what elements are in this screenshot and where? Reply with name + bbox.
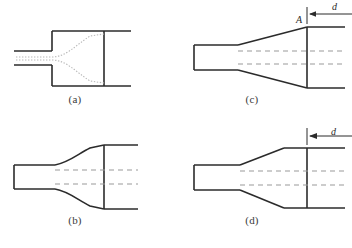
panel-c-caption: (c) (232, 93, 272, 105)
panel-d-caption: (d) (232, 214, 272, 226)
panel-b-diverging-upper-wall (55, 145, 104, 165)
panel-b-diverging-lower-wall (55, 189, 104, 209)
panel-d-geometry (194, 128, 352, 208)
panel-a-jet-boundary-upper (16, 34, 104, 57)
diffuser-figure-svg (0, 0, 352, 248)
panel-b-geometry (14, 145, 138, 209)
panel-d-dimension-arrowhead-left-icon (309, 133, 317, 139)
panel-c-diverging-lower-wall (238, 70, 307, 88)
panel-b-caption: (b) (55, 214, 95, 226)
panel-a-jet-boundary-lower (16, 60, 104, 83)
panel-c-dimension-arrowhead-left-icon (309, 11, 316, 16)
panel-d-diverging-upper-wall (240, 148, 284, 165)
panel-c-diverging-upper-wall (238, 27, 307, 45)
panel-d-dimension-label-d: d (331, 126, 336, 137)
panel-c-point-label-A: A (296, 14, 302, 25)
figure-root: A d d (a) (b) (c) (d) (0, 0, 352, 248)
panel-c-geometry (194, 7, 352, 88)
panel-a-caption: (a) (55, 93, 95, 105)
panel-c-dimension-label-d: d (332, 1, 337, 12)
panel-d-diverging-lower-wall (240, 190, 284, 208)
panel-a-geometry (14, 31, 131, 86)
